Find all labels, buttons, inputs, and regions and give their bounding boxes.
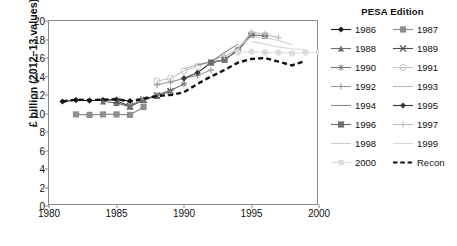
- legend-item-1990[interactable]: 1990: [330, 61, 392, 73]
- y-tick-mark: [45, 132, 49, 133]
- legend-swatch-icon: [330, 24, 352, 35]
- legend-label: 1993: [417, 81, 438, 92]
- x-tick-mark: [49, 204, 50, 208]
- legend-item-1986[interactable]: 1986: [330, 23, 392, 35]
- legend-swatch-icon: [392, 62, 414, 73]
- legend-item-recon[interactable]: Recon: [392, 156, 454, 168]
- series-1987: [73, 104, 147, 118]
- series-line: [184, 34, 252, 78]
- data-point: [262, 49, 268, 55]
- legend-item-1989[interactable]: 1989: [392, 42, 454, 54]
- plot-area: 02468101214161820 19801985199019952000: [48, 20, 318, 205]
- legend-swatch-icon: [330, 100, 352, 111]
- legend-title: PESA Edition: [330, 6, 455, 17]
- data-point: [181, 75, 187, 81]
- data-point: [316, 49, 319, 55]
- legend-item-1993[interactable]: 1993: [392, 80, 454, 92]
- y-tick-mark: [45, 169, 49, 170]
- legend-label: 1998: [355, 138, 376, 149]
- legend-label: 1987: [417, 24, 438, 35]
- data-point: [127, 112, 133, 118]
- legend-swatch-icon: [330, 43, 352, 54]
- chart-figure: £ billion (2012–13 values) 0246810121416…: [0, 0, 457, 246]
- y-tick-mark: [45, 58, 49, 59]
- x-tick-mark: [116, 204, 117, 208]
- series-1995: [181, 31, 255, 82]
- legend-label: 1986: [355, 24, 376, 35]
- data-point: [248, 48, 254, 54]
- data-point: [235, 49, 241, 55]
- y-tick-mark: [45, 150, 49, 151]
- legend-item-1995[interactable]: 1995: [392, 99, 454, 111]
- y-tick-mark: [45, 187, 49, 188]
- series-1993: [184, 55, 225, 69]
- data-point: [181, 81, 187, 87]
- legend-swatch-icon: [330, 157, 352, 168]
- legend-swatch-icon: [330, 81, 352, 92]
- data-point: [86, 112, 92, 118]
- legend: PESA Edition 198619871988198919901991199…: [330, 6, 455, 168]
- legend-swatch-icon: [330, 62, 352, 73]
- legend-label: 1989: [417, 43, 438, 54]
- y-tick-label: 10: [34, 108, 45, 119]
- data-point: [275, 49, 281, 55]
- data-point: [167, 87, 173, 93]
- y-tick-label: 14: [34, 71, 45, 82]
- x-tick-label: 1995: [240, 208, 262, 219]
- x-tick-label: 1990: [173, 208, 195, 219]
- legend-label: 1999: [417, 138, 438, 149]
- legend-swatch-icon: [392, 138, 414, 149]
- legend-items: 1986198719881989199019911992199319941995…: [330, 23, 455, 168]
- x-tick-label: 2000: [308, 208, 330, 219]
- data-point: [302, 49, 308, 55]
- x-tick-mark: [319, 204, 320, 208]
- legend-label: 1990: [355, 62, 376, 73]
- legend-swatch-icon: [330, 119, 352, 130]
- legend-item-1994[interactable]: 1994: [330, 99, 392, 111]
- legend-item-1988[interactable]: 1988: [330, 42, 392, 54]
- legend-label: 1991: [417, 62, 438, 73]
- x-tick-label: 1980: [38, 208, 60, 219]
- legend-item-1997[interactable]: 1997: [392, 118, 454, 130]
- y-tick-mark: [45, 21, 49, 22]
- legend-label: 1995: [417, 100, 438, 111]
- data-point: [113, 111, 119, 117]
- series-layer: [49, 21, 319, 206]
- legend-label: 1994: [355, 100, 376, 111]
- legend-label: 2000: [355, 157, 376, 168]
- y-tick-mark: [45, 76, 49, 77]
- legend-item-1991[interactable]: 1991: [392, 61, 454, 73]
- series-1999: [252, 41, 306, 49]
- y-tick-mark: [45, 39, 49, 40]
- legend-item-1996[interactable]: 1996: [330, 118, 392, 130]
- data-point: [100, 111, 106, 117]
- data-point: [208, 60, 214, 66]
- y-tick-mark: [45, 95, 49, 96]
- y-tick-label: 18: [34, 34, 45, 45]
- legend-swatch-icon: [330, 138, 352, 149]
- legend-swatch-icon: [392, 24, 414, 35]
- legend-label: 1997: [417, 119, 438, 130]
- y-tick-label: 20: [34, 16, 45, 27]
- series-line: [252, 41, 306, 49]
- legend-swatch-icon: [392, 100, 414, 111]
- data-point: [127, 103, 133, 109]
- x-tick-mark: [184, 204, 185, 208]
- legend-item-1992[interactable]: 1992: [330, 80, 392, 92]
- data-point: [289, 50, 295, 56]
- x-tick-label: 1985: [105, 208, 127, 219]
- legend-item-1999[interactable]: 1999: [392, 137, 454, 149]
- series-line: [184, 55, 225, 69]
- legend-swatch-icon: [392, 81, 414, 92]
- legend-item-1998[interactable]: 1998: [330, 137, 392, 149]
- legend-swatch-icon: [392, 157, 414, 168]
- legend-item-1987[interactable]: 1987: [392, 23, 454, 35]
- x-tick-mark: [251, 204, 252, 208]
- data-point: [73, 111, 79, 117]
- legend-item-2000[interactable]: 2000: [330, 156, 392, 168]
- y-tick-label: 16: [34, 53, 45, 64]
- y-tick-mark: [45, 113, 49, 114]
- legend-swatch-icon: [392, 119, 414, 130]
- legend-swatch-icon: [392, 43, 414, 54]
- legend-label: 1996: [355, 119, 376, 130]
